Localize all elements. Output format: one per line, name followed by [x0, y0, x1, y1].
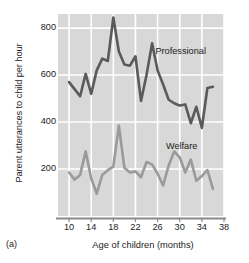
y-axis-title: Parent utterances to child per hour: [14, 8, 24, 218]
x-tick-label: 14: [80, 222, 102, 232]
x-tick-label: 18: [102, 222, 124, 232]
y-tick-labels: 800600400200: [26, 0, 56, 263]
x-tick-label: 34: [191, 222, 213, 232]
x-tick-label: 30: [169, 222, 191, 232]
y-tick-label: 800: [30, 22, 56, 32]
series-label-professional: Professional: [155, 46, 206, 56]
y-tick-label: 600: [30, 69, 56, 79]
y-tick-label: 400: [30, 116, 56, 126]
x-tick-label: 22: [124, 222, 146, 232]
x-tick-label: 38: [213, 222, 235, 232]
series-label-welfare: Welfare: [166, 141, 198, 151]
x-tick-label: 10: [58, 222, 80, 232]
x-tick-label: 26: [147, 222, 169, 232]
x-axis-title: Age of children (months): [58, 240, 228, 250]
y-tick-label: 200: [30, 163, 56, 173]
chart-figure: 800600400200 Parent utterances to child …: [0, 0, 249, 263]
panel-label: (a): [6, 239, 17, 249]
